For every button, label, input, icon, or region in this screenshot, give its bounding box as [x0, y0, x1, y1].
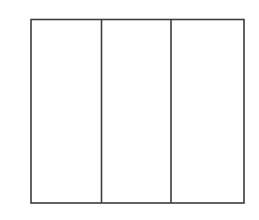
panel-left-region	[32, 20, 101, 202]
figure-canvas	[0, 0, 259, 220]
panel-right-region	[172, 20, 243, 202]
panel-center-region	[102, 20, 170, 202]
three-panel-frame-diagram	[0, 0, 259, 220]
